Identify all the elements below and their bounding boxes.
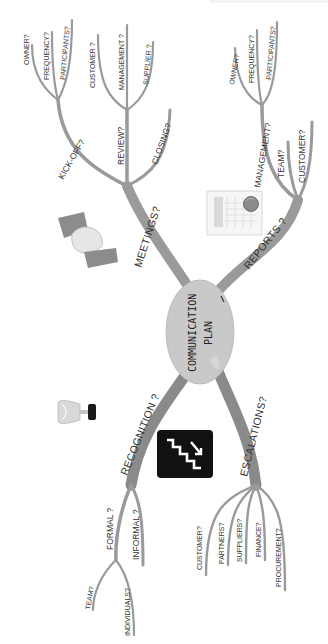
reports-team-label: TEAM?	[276, 149, 286, 178]
informal-label: INFORMAL ?	[131, 509, 141, 560]
handshake-icon	[58, 212, 118, 268]
recognition-branch	[93, 365, 192, 635]
central-node: COMMUNICATION PLAN	[166, 280, 234, 384]
kickoff-owner-label: OWNER?	[23, 34, 30, 65]
reports-customer-label: CUSTOMER?	[297, 130, 307, 183]
escalation-partners-label: PARTNERS?	[218, 523, 225, 564]
kickoff-frequency-label: FREQUENCY?	[43, 32, 51, 80]
central-node-line1: COMMUNICATION	[187, 294, 198, 372]
report-chart-icon	[207, 191, 262, 235]
formal-label: FORMAL ?	[105, 508, 115, 550]
escalation-finance-label: FINANCE?	[255, 522, 262, 557]
central-node-line2: PLAN	[203, 321, 214, 345]
mind-map-canvas: COMMUNICATION PLAN MEETINGS? KICK-OFF? R…	[0, 0, 328, 644]
top-edge-strip	[210, 0, 328, 3]
review-management-label: MANAGEMENT ?	[118, 34, 125, 90]
review-label: REVIEW?	[116, 126, 126, 165]
reports-management-label: MANAGEMENT?	[252, 122, 273, 189]
reports-frequency-label: FREQUENCY?	[248, 35, 256, 83]
escalation-suppliers-label: SUPPLIERS?	[236, 519, 243, 562]
stairs-up-icon	[157, 430, 213, 478]
escalation-customer-label: CUSTOMER?	[196, 526, 203, 570]
escalation-procurement-label: PROCUREMENT?	[275, 528, 282, 587]
closing-label: CLOSING?	[149, 122, 173, 166]
review-customer-label: CUSTOMER ?	[89, 42, 96, 88]
mind-map-svg: COMMUNICATION PLAN MEETINGS? KICK-OFF? R…	[0, 0, 328, 644]
trophy-icon	[58, 400, 96, 423]
formal-individuals-label: INDIVIDUALS?	[124, 588, 131, 636]
